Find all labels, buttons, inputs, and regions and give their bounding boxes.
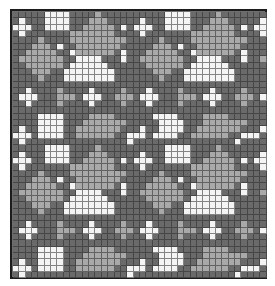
colorwork-grid <box>13 12 267 278</box>
grid-cell <box>260 272 266 278</box>
chart-frame <box>10 9 267 279</box>
